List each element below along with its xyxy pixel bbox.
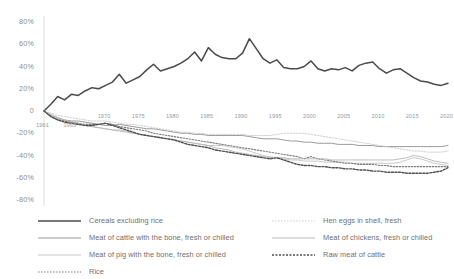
x-tick-label: 1995 xyxy=(269,113,282,119)
y-tick-label: 80% xyxy=(0,17,34,26)
x-tick-label: 1965 xyxy=(63,122,76,128)
legend-line-swatch-icon xyxy=(272,216,315,226)
x-tick-label: 2015 xyxy=(406,113,419,119)
legend-item-label: Meat of cattle with the bone, fresh or c… xyxy=(89,229,234,246)
y-tick-label: 0 xyxy=(0,106,34,115)
x-tick-label: 1975 xyxy=(132,113,145,119)
y-tick-label: -80% xyxy=(0,195,34,204)
legend-item-label: Raw meat of cattle xyxy=(323,246,385,263)
legend-item-label: Meat of pig with the bone, fresh or chil… xyxy=(89,246,226,263)
legend-item-label: Rice xyxy=(89,263,104,279)
x-tick-label: 1980 xyxy=(166,113,179,119)
legend-item-label: Cereals excluding rice xyxy=(89,212,163,229)
x-tick-label: 1961 xyxy=(36,122,49,128)
legend-item[interactable]: Raw meat of cattle xyxy=(272,246,454,263)
legend-line-swatch-icon xyxy=(38,250,81,260)
series-line-6 xyxy=(44,111,448,173)
chart-legend: Cereals excluding riceMeat of cattle wit… xyxy=(0,212,454,279)
x-tick-label: 2005 xyxy=(337,113,350,119)
y-tick-label: 20% xyxy=(0,84,34,93)
line-chart-plot xyxy=(0,0,454,215)
legend-line-swatch-icon xyxy=(38,216,81,226)
series-line-2 xyxy=(44,111,448,166)
legend-line-swatch-icon xyxy=(38,267,81,277)
x-tick-label: 1970 xyxy=(98,113,111,119)
legend-column-right: Hen eggs in shell, freshMeat of chickens… xyxy=(272,212,454,263)
x-tick-label: 2010 xyxy=(372,113,385,119)
legend-line-swatch-icon xyxy=(38,233,81,243)
legend-item[interactable]: Hen eggs in shell, fresh xyxy=(272,212,454,229)
legend-item[interactable]: Cereals excluding rice xyxy=(38,212,253,229)
legend-item[interactable]: Meat of chickens, fresh or chilled xyxy=(272,229,454,246)
legend-line-swatch-icon xyxy=(272,250,315,260)
x-tick-label: 2000 xyxy=(303,113,316,119)
x-tick-label: 1985 xyxy=(200,113,213,119)
y-tick-label: 60% xyxy=(0,39,34,48)
legend-item-label: Meat of chickens, fresh or chilled xyxy=(323,229,432,246)
legend-item[interactable]: Meat of cattle with the bone, fresh or c… xyxy=(38,229,253,246)
x-tick-label: 1990 xyxy=(235,113,248,119)
y-tick-label: -60% xyxy=(0,173,34,182)
legend-column-left: Cereals excluding riceMeat of cattle wit… xyxy=(38,212,253,279)
series-line-0 xyxy=(44,39,448,111)
y-tick-label: -20% xyxy=(0,128,34,137)
legend-item[interactable]: Meat of pig with the bone, fresh or chil… xyxy=(38,246,253,263)
series-line-3 xyxy=(44,111,448,167)
x-tick-label: 2020 xyxy=(440,113,453,119)
chart-container: 80%60%40%20%0-20%-40%-60%-80% 1961196519… xyxy=(0,0,454,279)
legend-line-swatch-icon xyxy=(272,233,315,243)
legend-item-label: Hen eggs in shell, fresh xyxy=(323,212,401,229)
y-tick-label: 40% xyxy=(0,62,34,71)
legend-item[interactable]: Rice xyxy=(38,263,253,279)
y-tick-label: -40% xyxy=(0,151,34,160)
